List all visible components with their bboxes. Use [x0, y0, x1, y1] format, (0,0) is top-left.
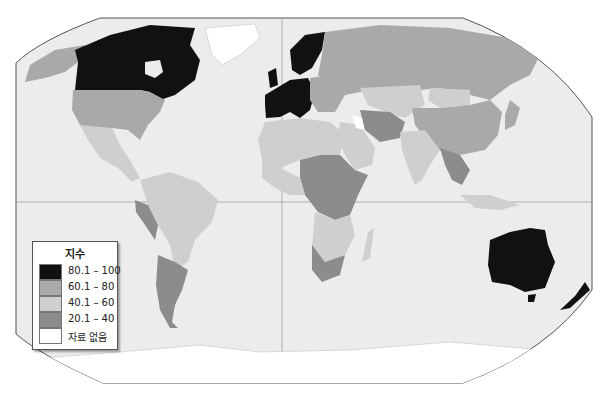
legend-item: 자료 없음: [39, 328, 117, 344]
legend-label: 80.1 – 100: [68, 265, 121, 276]
legend-label: 40.1 – 60: [68, 297, 114, 308]
map-legend: 지수 80.1 – 100 60.1 – 80 40.1 – 60 20.1 –…: [32, 241, 118, 350]
legend-title: 지수: [33, 245, 117, 261]
legend-item: 40.1 – 60: [39, 296, 117, 312]
legend-swatch: [39, 264, 62, 280]
legend-swatch: [39, 280, 62, 296]
legend-item: 60.1 – 80: [39, 280, 117, 296]
region-australia: [488, 228, 555, 292]
legend-label: 자료 없음: [68, 329, 107, 344]
legend-swatch: [39, 296, 62, 312]
legend-swatch: [39, 328, 62, 344]
legend-item: 20.1 – 40: [39, 312, 117, 328]
legend-swatch: [39, 312, 62, 328]
legend-item: 80.1 – 100: [39, 264, 117, 280]
legend-label: 60.1 – 80: [68, 281, 114, 292]
legend-label: 20.1 – 40: [68, 313, 114, 324]
